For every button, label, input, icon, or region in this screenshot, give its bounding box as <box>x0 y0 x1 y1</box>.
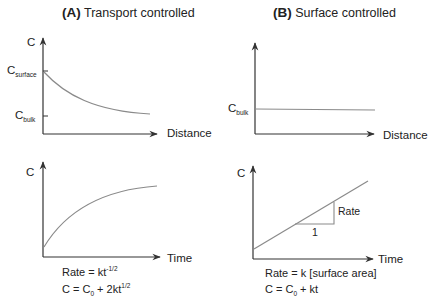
decay-curve <box>44 72 150 114</box>
panel-a-concentration-equation: C = C0 + 2kt1/2 <box>62 283 130 298</box>
panel-a-top-chart <box>43 38 157 134</box>
panel-a-bottom-chart <box>43 162 160 257</box>
panel-b-bottom-y-label: C <box>237 168 245 180</box>
panel-b-bottom-x-label: Time <box>378 254 403 266</box>
panel-b-top-x-label: Distance <box>383 130 428 142</box>
panel-a-tick-surface-label: Csurface <box>7 65 37 79</box>
panel-b-concentration-equation: C = C0 + kt <box>265 284 318 298</box>
panel-a-top-y-label: C <box>27 37 35 49</box>
panel-a-tick-bulk-label: Cbulk <box>15 110 35 124</box>
panel-a-top-x-label: Distance <box>167 128 212 140</box>
panel-a-bottom-y-label: C <box>26 167 34 179</box>
bulk-line <box>255 109 375 110</box>
sqrt-curve <box>44 186 157 247</box>
panel-b-tick-bulk-label: Cbulk <box>228 103 248 117</box>
diagram-canvas <box>0 0 433 303</box>
panel-a-rate-equation: Rate = kt-1/2 <box>62 266 118 278</box>
panel-b-top-chart <box>255 43 375 134</box>
slope-run-label: 1 <box>312 227 318 238</box>
slope-rise-label: Rate <box>338 206 360 217</box>
panel-a-bottom-x-label: Time <box>167 253 192 265</box>
panel-b-rate-equation: Rate = k [surface area] <box>265 268 377 279</box>
